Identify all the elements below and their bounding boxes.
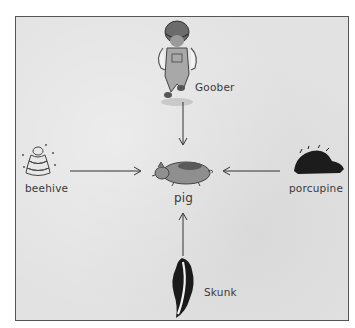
pig-node [150, 155, 222, 187]
arrow-porcupine-to-pig [222, 166, 280, 176]
beehive-icon [20, 141, 60, 181]
porcupine-icon [290, 145, 346, 177]
goober-node [147, 18, 207, 108]
porcupine-label: porcupine [289, 182, 343, 194]
arrow-beehive-to-pig [70, 166, 142, 176]
skunk-label: Skunk [204, 286, 237, 298]
farmer-icon [147, 18, 207, 108]
skunk-node [170, 256, 198, 320]
pig-icon [150, 155, 222, 187]
porcupine-node [290, 145, 346, 177]
arrow-goober-to-pig [178, 102, 188, 146]
beehive-label: beehive [25, 182, 68, 194]
beehive-node [20, 141, 60, 181]
goober-label: Goober [195, 81, 235, 93]
pig-label: pig [174, 191, 193, 205]
arrow-skunk-to-pig [178, 212, 188, 256]
skunk-icon [170, 256, 198, 320]
